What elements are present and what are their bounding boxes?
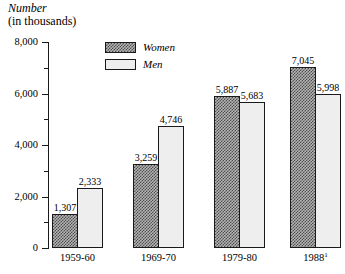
bar-women-1959-60: 1,307: [52, 214, 78, 248]
y-axis-tick-major: [42, 197, 49, 198]
legend-item-men: Men: [105, 57, 175, 71]
legend-swatch-men: [105, 59, 136, 70]
legend-item-women: Women: [105, 40, 175, 54]
bar-value-label: 1,307: [54, 203, 77, 213]
legend: Women Men: [105, 40, 175, 74]
y-axis-tick-major: [42, 94, 49, 95]
bar-group-bars: 3,2594,746: [133, 126, 184, 248]
y-axis-label: 8,000: [0, 37, 38, 48]
bar-men-1959-60: 2,333: [77, 188, 103, 248]
bar-men-1979-80: 5,683: [239, 102, 265, 248]
y-axis-title-line2: (in thousands): [8, 15, 76, 28]
y-axis-tick-minor: [44, 171, 49, 172]
x-axis-category-label: 19881: [290, 252, 341, 263]
y-axis-label: 2,000: [0, 192, 38, 203]
legend-swatch-women: [105, 42, 136, 53]
x-axis-category-label: 1969-70: [133, 252, 184, 263]
x-axis-category-label: 1959-60: [52, 252, 103, 263]
y-axis-tick-minor: [44, 68, 49, 69]
y-axis-label: 4,000: [0, 140, 38, 151]
y-axis-label: 6,000: [0, 89, 38, 100]
y-axis-tick-major: [42, 248, 49, 249]
bar-value-label: 7,045: [292, 56, 315, 66]
legend-label-men: Men: [143, 59, 163, 70]
x-axis-category-label: 1979-80: [214, 252, 265, 263]
bar-value-label: 2,333: [79, 177, 102, 187]
y-axis-title: Number (in thousands): [8, 2, 76, 28]
bar-group-bars: 5,8875,683: [214, 96, 265, 248]
bar-group-bars: 1,3072,333: [52, 188, 103, 248]
y-axis-label: 0: [0, 243, 38, 254]
y-axis-tick-major: [42, 145, 49, 146]
bar-value-label: 4,746: [160, 115, 183, 125]
bar-women-1969-70: 3,259: [133, 164, 159, 248]
bar-women-1988: 7,045: [290, 67, 316, 248]
bar-group-bars: 7,0455,998: [290, 67, 341, 248]
bar-value-label: 5,887: [216, 85, 239, 95]
y-axis-tick-major: [42, 42, 49, 43]
y-axis-tick-minor: [44, 119, 49, 120]
bar-men-1969-70: 4,746: [158, 126, 184, 248]
bar-chart: Number (in thousands) 02,0004,0006,0008,…: [0, 0, 345, 274]
y-axis-tick-minor: [44, 222, 49, 223]
bar-value-label: 5,683: [241, 91, 264, 101]
bar-women-1979-80: 5,887: [214, 96, 240, 248]
legend-label-women: Women: [143, 42, 175, 53]
footnote-marker: 1: [324, 251, 328, 259]
bar-value-label: 3,259: [135, 153, 158, 163]
bar-men-1988: 5,998: [315, 94, 341, 248]
bar-value-label: 5,998: [317, 83, 340, 93]
